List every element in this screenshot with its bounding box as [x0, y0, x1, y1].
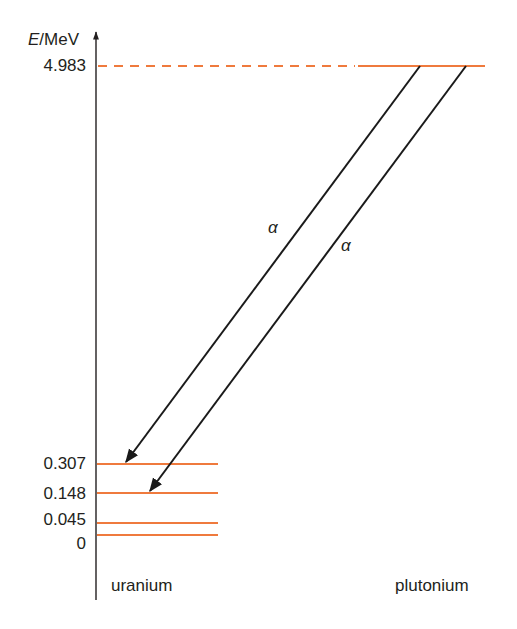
axis-label-unit: /MeV: [39, 30, 79, 49]
alpha-arrow-to-0148: [150, 66, 466, 491]
nucleus-label-plutonium: plutonium: [395, 576, 469, 596]
alpha-label-1: α: [268, 218, 278, 238]
axis-label: E/MeV: [28, 30, 79, 50]
level-label-4983: 4.983: [0, 56, 86, 76]
level-label-0045: 0.045: [0, 510, 86, 530]
alpha-label-2: α: [341, 236, 351, 256]
level-label-0148: 0.148: [0, 484, 86, 504]
axis-label-variable: E: [28, 30, 39, 49]
nucleus-label-uranium: uranium: [111, 576, 172, 596]
level-label-0: 0: [0, 534, 86, 554]
level-label-0307: 0.307: [0, 454, 86, 474]
alpha-arrow-to-0307: [126, 66, 420, 462]
